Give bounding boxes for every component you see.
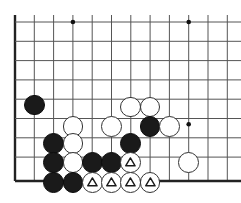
white-stone-triangle[interactable]: [120, 152, 141, 173]
black-stone[interactable]: [43, 172, 64, 193]
go-board-diagram: [0, 0, 241, 203]
white-stone-triangle[interactable]: [120, 172, 141, 193]
black-stone[interactable]: [63, 172, 84, 193]
black-stone[interactable]: [82, 152, 103, 173]
triangle-mark-icon: [141, 173, 160, 192]
triangle-mark-icon: [83, 173, 102, 192]
star-point-lower-right: [186, 122, 191, 127]
white-stone-triangle[interactable]: [101, 172, 122, 193]
triangle-mark-icon: [121, 153, 140, 172]
star-point-upper-left: [71, 20, 76, 25]
black-stone[interactable]: [24, 95, 45, 116]
white-stone[interactable]: [63, 133, 84, 154]
star-point-upper-right: [186, 20, 191, 25]
triangle-mark-icon: [121, 173, 140, 192]
black-stone[interactable]: [43, 133, 64, 154]
white-stone[interactable]: [159, 116, 180, 137]
white-stone[interactable]: [101, 116, 122, 137]
triangle-mark-icon: [102, 173, 121, 192]
black-stone[interactable]: [140, 116, 161, 137]
white-stone-triangle[interactable]: [140, 172, 161, 193]
white-stone-triangle[interactable]: [82, 172, 103, 193]
